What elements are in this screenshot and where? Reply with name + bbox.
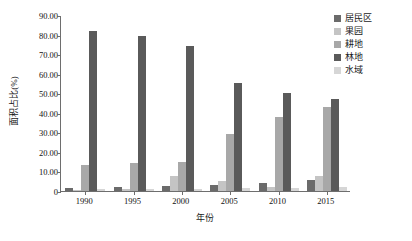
bar-group [259, 16, 299, 191]
y-axis-tick-label: 30.00 [18, 128, 58, 138]
bar-group [65, 16, 105, 191]
y-axis-tick-mark [57, 16, 61, 17]
y-axis-tick-label: 70.00 [18, 50, 58, 60]
legend-swatch-icon [334, 67, 341, 74]
bar [323, 107, 331, 191]
x-axis-tick-mark [230, 191, 231, 195]
x-axis-tick-mark [85, 191, 86, 195]
bar [170, 176, 178, 191]
legend-swatch-icon [334, 28, 341, 35]
bar [65, 188, 73, 191]
y-axis-tick-mark [57, 75, 61, 76]
y-axis-tick-mark [57, 114, 61, 115]
legend-swatch-icon [334, 15, 341, 22]
bar-group [210, 16, 250, 191]
bar [122, 189, 130, 191]
bar [275, 117, 283, 191]
bar [130, 163, 138, 191]
y-axis-tick-label: 60.00 [18, 70, 58, 80]
x-axis-tick-label: 2015 [296, 196, 356, 206]
y-axis-tick-label: 80.00 [18, 31, 58, 41]
legend-label: 耕地 [345, 38, 363, 51]
y-axis-tick-mark [57, 55, 61, 56]
bar [315, 176, 323, 191]
bar [162, 186, 170, 191]
bar [97, 189, 105, 191]
x-axis-title: 年份 [60, 211, 350, 224]
bar [73, 190, 81, 191]
plot-area [60, 16, 350, 192]
legend-swatch-icon [334, 54, 341, 61]
legend-label: 林地 [345, 51, 363, 64]
bar [291, 188, 299, 191]
y-axis-tick-label: 50.00 [18, 89, 58, 99]
y-axis-tick-label: 40.00 [18, 109, 58, 119]
bar [259, 183, 267, 191]
bar [339, 187, 347, 191]
bar-group [162, 16, 202, 191]
legend-item[interactable]: 居民区 [334, 12, 408, 25]
y-axis-tick-label: 10.00 [18, 167, 58, 177]
y-axis-tick-label: 90.00 [18, 11, 58, 21]
bar [114, 187, 122, 191]
y-axis-tick-label: 20.00 [18, 148, 58, 158]
bar [81, 165, 89, 191]
x-axis-tick-mark [134, 191, 135, 195]
bar [89, 31, 97, 191]
legend-label: 居民区 [345, 12, 372, 25]
legend-item[interactable]: 林地 [334, 51, 408, 64]
bar [194, 189, 202, 191]
y-axis-tick-mark [57, 94, 61, 95]
chart-figure: 面积占比(%) 010.0020.0030.0040.0050.0060.007… [0, 0, 412, 241]
x-axis-tick-mark [327, 191, 328, 195]
bar [178, 162, 186, 191]
y-axis-tick-label: 0 [18, 187, 58, 197]
bar [226, 134, 234, 191]
legend-swatch-icon [334, 41, 341, 48]
bar [146, 189, 154, 191]
x-axis-tick-labels: 199019952000200520102015 [60, 196, 350, 210]
bar [210, 185, 218, 191]
y-axis-tick-mark [57, 172, 61, 173]
bar [234, 83, 242, 191]
y-axis-tick-mark [57, 133, 61, 134]
x-axis-tick-mark [279, 191, 280, 195]
y-axis-tick-mark [57, 36, 61, 37]
chart-legend: 居民区果园耕地林地水域 [334, 12, 408, 77]
legend-item[interactable]: 水域 [334, 64, 408, 77]
y-axis-tick-mark [57, 153, 61, 154]
bar [307, 180, 315, 191]
bar [267, 187, 275, 191]
bar [331, 99, 339, 191]
bar [283, 93, 291, 191]
legend-label: 水域 [345, 64, 363, 77]
bar [186, 46, 194, 191]
x-axis-tick-mark [182, 191, 183, 195]
y-axis-tick-labels: 010.0020.0030.0040.0050.0060.0070.0080.0… [18, 16, 58, 192]
y-axis-tick-mark [57, 192, 61, 193]
bar-group [114, 16, 154, 191]
bar [242, 188, 250, 191]
bar [218, 181, 226, 191]
legend-item[interactable]: 果园 [334, 25, 408, 38]
legend-label: 果园 [345, 25, 363, 38]
bar [138, 36, 146, 191]
legend-item[interactable]: 耕地 [334, 38, 408, 51]
